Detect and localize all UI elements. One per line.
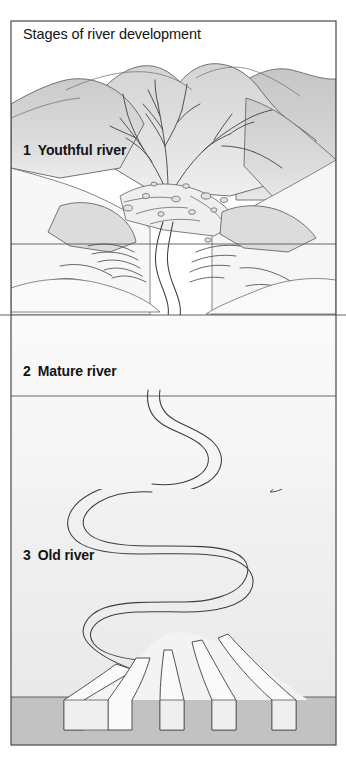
stage-2-scene <box>11 315 336 493</box>
diagram-canvas <box>0 0 346 758</box>
river-development-diagram <box>0 0 346 758</box>
diagram-content <box>11 21 336 745</box>
mature-plain-fill <box>11 315 336 489</box>
stage-1-scene <box>11 21 336 315</box>
